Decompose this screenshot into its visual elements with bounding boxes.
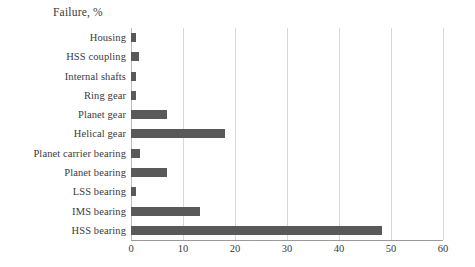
x-tick-label-0: 0 — [128, 243, 133, 254]
bar-row[interactable] — [131, 144, 443, 163]
bar[interactable] — [131, 149, 140, 158]
bar[interactable] — [131, 207, 200, 216]
category-label: Helical gear — [0, 124, 126, 143]
x-tick-label-60: 60 — [438, 243, 449, 254]
bar[interactable] — [131, 129, 225, 138]
bar-series — [131, 28, 443, 240]
x-tick-label-20: 20 — [230, 243, 241, 254]
bar-row[interactable] — [131, 105, 443, 124]
bar[interactable] — [131, 91, 136, 100]
bar[interactable] — [131, 52, 139, 61]
chart-title: Failure, % — [53, 6, 103, 18]
x-tick-label-10: 10 — [178, 243, 189, 254]
bar-row[interactable] — [131, 221, 443, 240]
category-label: LSS bearing — [0, 182, 126, 201]
category-label: Planet gear — [0, 105, 126, 124]
bar-row[interactable] — [131, 201, 443, 220]
bar-chart: Failure, % HousingHSS couplingInternal s… — [0, 0, 475, 267]
x-axis-tick-labels: 0102030405060 — [131, 243, 443, 263]
category-label: Planet bearing — [0, 163, 126, 182]
category-label: Housing — [0, 28, 126, 47]
bar-row[interactable] — [131, 28, 443, 47]
bar-row[interactable] — [131, 182, 443, 201]
bar[interactable] — [131, 187, 136, 196]
bar-row[interactable] — [131, 124, 443, 143]
category-label: Internal shafts — [0, 67, 126, 86]
category-axis-labels: HousingHSS couplingInternal shaftsRing g… — [0, 28, 126, 240]
category-label: Planet carrier bearing — [0, 144, 126, 163]
category-label: IMS bearing — [0, 201, 126, 220]
x-axis-line — [131, 240, 443, 241]
bar-row[interactable] — [131, 67, 443, 86]
category-label: HSS bearing — [0, 221, 126, 240]
bar[interactable] — [131, 226, 382, 235]
x-tick-label-30: 30 — [282, 243, 293, 254]
category-label: HSS coupling — [0, 47, 126, 66]
bar[interactable] — [131, 33, 136, 42]
bar[interactable] — [131, 110, 167, 119]
bar-row[interactable] — [131, 47, 443, 66]
x-tick-label-50: 50 — [386, 243, 397, 254]
bar[interactable] — [131, 72, 136, 81]
x-tick-label-40: 40 — [334, 243, 345, 254]
gridline-60 — [443, 28, 444, 240]
category-label: Ring gear — [0, 86, 126, 105]
bar[interactable] — [131, 168, 167, 177]
bar-row[interactable] — [131, 86, 443, 105]
bar-row[interactable] — [131, 163, 443, 182]
plot-area — [131, 28, 443, 240]
